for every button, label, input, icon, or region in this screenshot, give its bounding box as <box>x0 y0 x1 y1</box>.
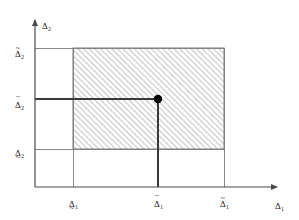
x-axis-label: Δ1 <box>275 196 284 212</box>
y-tick-hat-symbol: ¯ Δ2 <box>15 101 24 111</box>
x-tick-upper-base: Δ <box>220 199 226 209</box>
y-tick-label-lower: Δ2 ~ <box>15 143 24 159</box>
x-tick-upper-sub: 1 <box>226 204 229 210</box>
x-tick-lower-base: Δ <box>69 199 75 209</box>
y-axis-label-base: Δ <box>42 21 48 31</box>
y-tick-label-upper: ~ Δ2 <box>15 44 24 60</box>
x-tick-hat-base: Δ <box>154 199 160 209</box>
y-tick-hat-base: Δ <box>15 100 21 110</box>
y-axis-label: Δ2 <box>42 16 51 32</box>
x-tick-upper-symbol: ~ Δ1 <box>220 200 229 210</box>
x-tick-label-hat: ¯ Δ1 <box>154 194 163 210</box>
x-tick-label-upper: ~ Δ1 <box>220 194 229 210</box>
x-axis-label-sub: 1 <box>281 206 284 212</box>
y-tick-lower-sub: 2 <box>21 153 24 159</box>
y-axis-label-sub: 2 <box>48 26 51 32</box>
y-axis-label-symbol: Δ2 <box>42 22 51 32</box>
region-diagram-svg <box>0 0 299 220</box>
x-tick-hat-symbol: ¯ Δ1 <box>154 200 163 210</box>
x-axis-label-base: Δ <box>275 201 281 211</box>
y-tick-upper-sub: 2 <box>21 54 24 60</box>
y-tick-hat-sub: 2 <box>21 105 24 111</box>
x-tick-lower-sub: 1 <box>75 204 78 210</box>
y-tick-upper-symbol: ~ Δ2 <box>15 50 24 60</box>
y-tick-lower-base: Δ <box>15 148 21 158</box>
x-tick-hat-sub: 1 <box>160 204 163 210</box>
x-axis-label-symbol: Δ1 <box>275 202 284 212</box>
y-tick-label-hat: ¯ Δ2 <box>15 95 24 111</box>
figure-container: Δ2 Δ1 ~ Δ2 ¯ Δ2 Δ2 ~ Δ1 ~ ¯ <box>0 0 299 220</box>
x-tick-label-lower: Δ1 ~ <box>69 194 78 210</box>
x-tick-lower-symbol: Δ1 ~ <box>69 200 78 210</box>
marked-point <box>154 95 162 103</box>
y-tick-lower-symbol: Δ2 ~ <box>15 149 24 159</box>
y-tick-upper-base: Δ <box>15 49 21 59</box>
